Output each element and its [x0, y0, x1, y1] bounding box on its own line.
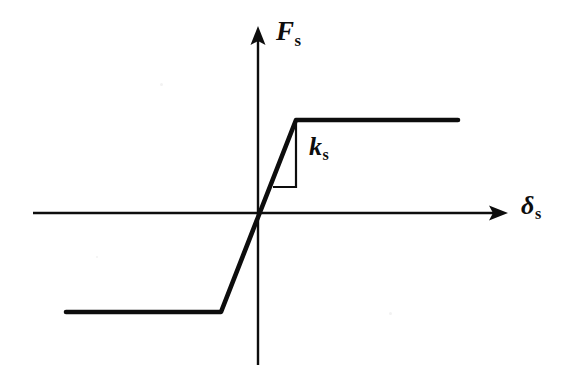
force-displacement-curve [66, 120, 458, 312]
y-axis-label-subscript: s [295, 31, 302, 50]
stiffness-label-symbol: k [309, 132, 322, 161]
y-axis-label-symbol: F [276, 16, 294, 46]
stiffness-label: ks [309, 134, 328, 160]
figure-root: Fs δs ks [0, 0, 584, 380]
spring-force-displacement-chart [0, 0, 584, 380]
x-axis-label-subscript: s [535, 205, 541, 222]
x-axis-label-symbol: δ [521, 191, 534, 220]
stiffness-label-subscript: s [323, 146, 329, 163]
y-axis-label: Fs [276, 18, 301, 45]
x-axis-label: δs [521, 193, 541, 219]
